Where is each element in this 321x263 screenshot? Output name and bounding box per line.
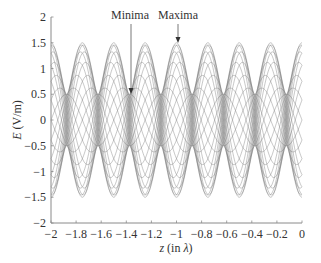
maxima-label: Maxima <box>158 8 199 22</box>
x-tick-label: −1 <box>170 227 183 241</box>
x-ticks: −2−1.8−1.6−1.4−1.2−1−0.8−0.6−0.4−0.20 <box>45 221 305 242</box>
x-tick-label: −1.8 <box>65 227 87 241</box>
x-tick-label: −1.2 <box>141 227 163 241</box>
y-axis-title: E (V/m) <box>10 100 24 141</box>
y-tick-label: 0.5 <box>31 87 46 101</box>
y-tick-label: 0 <box>40 113 46 127</box>
x-tick-label: −1.6 <box>90 227 112 241</box>
y-tick-label: −1 <box>33 165 46 179</box>
y-tick-label: 1 <box>40 62 46 76</box>
minima-label: Minima <box>111 8 150 22</box>
x-tick-label: −0.8 <box>191 227 213 241</box>
y-tick-label: −0.5 <box>24 139 46 153</box>
x-tick-label: 0 <box>299 227 305 241</box>
y-ticks: −2−1.5−1−0.500.511.52 <box>24 10 53 230</box>
y-tick-label: −2 <box>33 216 46 230</box>
y-tick-label: −1.5 <box>24 190 46 204</box>
x-tick-label: −2 <box>45 227 58 241</box>
x-tick-label: −0.4 <box>241 227 263 241</box>
maxima-arrowhead-icon <box>176 37 181 43</box>
x-tick-label: −0.6 <box>216 227 238 241</box>
y-tick-label: 2 <box>40 10 46 24</box>
x-tick-label: −0.2 <box>266 227 288 241</box>
minima-arrowhead-icon <box>129 88 134 94</box>
wave-curves <box>51 43 302 198</box>
x-tick-label: −1.4 <box>115 227 137 241</box>
y-tick-label: 1.5 <box>31 36 46 50</box>
standing-wave-chart: −2−1.8−1.6−1.4−1.2−1−0.8−0.6−0.4−0.20 −2… <box>0 0 321 263</box>
x-axis-title: z (in λ) <box>158 241 192 255</box>
